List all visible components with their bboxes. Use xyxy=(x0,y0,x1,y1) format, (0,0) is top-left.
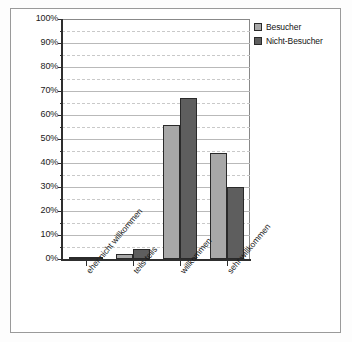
x-axis-label-1: teils-teils xyxy=(131,245,159,276)
legend-label: Besucher xyxy=(266,22,301,32)
x-axis-label-2: willkommen xyxy=(178,236,214,276)
legend-swatch-icon xyxy=(254,37,262,45)
chart-legend: BesucherNicht-Besucher xyxy=(254,21,344,49)
legend-swatch-icon xyxy=(254,23,262,31)
legend-item-1[interactable]: Nicht-Besucher xyxy=(254,35,344,47)
legend-label: Nicht-Besucher xyxy=(266,36,323,46)
chart-figure: 0%10%20%30%40%50%60%70%80%90%100% eher n… xyxy=(0,0,352,342)
x-axis-label-3: sehr willkommen xyxy=(225,222,272,276)
legend-item-0[interactable]: Besucher xyxy=(254,21,344,33)
x-axis-category-labels: eher nicht willkommenteils-teilswillkomm… xyxy=(0,0,352,342)
